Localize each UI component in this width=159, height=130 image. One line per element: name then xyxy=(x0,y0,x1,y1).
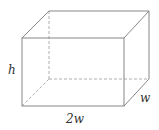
top-left-depth-edge xyxy=(22,11,49,38)
top-right-depth-edge xyxy=(124,11,149,38)
hidden-edges xyxy=(22,11,149,106)
length-label: 2w xyxy=(65,112,85,126)
front-face xyxy=(22,38,124,106)
height-label: h xyxy=(8,63,16,77)
depth-label: w xyxy=(140,91,151,105)
hidden-bottom-left-depth-edge xyxy=(22,79,49,106)
box-diagram: h w 2w xyxy=(0,0,159,130)
visible-edges xyxy=(22,11,149,106)
